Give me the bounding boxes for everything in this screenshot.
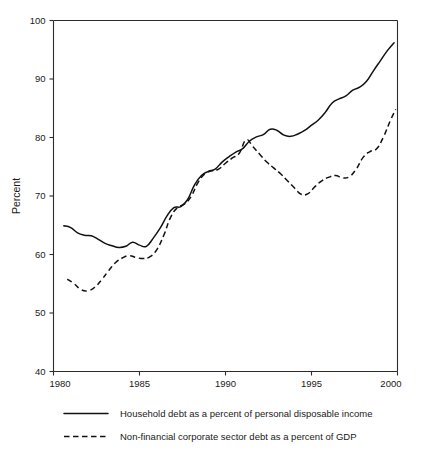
x-tick-label: 1985 [129,378,150,389]
line-chart: 405060708090100 19801985199019952000 Per… [0,0,425,452]
legend-label-corporate: Non-financial corporate sector debt as a… [120,431,357,442]
y-tick-label: 50 [35,307,46,318]
legend-label-household: Household debt as a percent of personal … [120,408,372,419]
x-tick-label: 2000 [380,378,401,389]
y-tick-label: 70 [35,190,46,201]
series-line-corporate [67,109,396,291]
x-axis-ticks: 19801985199019952000 [50,372,402,389]
y-tick-label: 40 [35,366,46,377]
x-tick-label: 1990 [215,378,236,389]
plot-frame [54,21,398,372]
y-tick-label: 100 [30,15,46,26]
y-tick-label: 90 [35,73,46,84]
chart-legend: Household debt as a percent of personal … [64,408,372,442]
x-tick-label: 1980 [50,378,71,389]
y-tick-label: 80 [35,132,46,143]
y-tick-label: 60 [35,249,46,260]
series-line-household [64,43,394,248]
x-tick-label: 1995 [301,378,322,389]
y-axis-ticks: 405060708090100 [30,15,54,377]
series-layer [64,43,396,291]
y-axis-title: Percent [10,178,22,214]
chart-figure: 405060708090100 19801985199019952000 Per… [0,0,425,452]
